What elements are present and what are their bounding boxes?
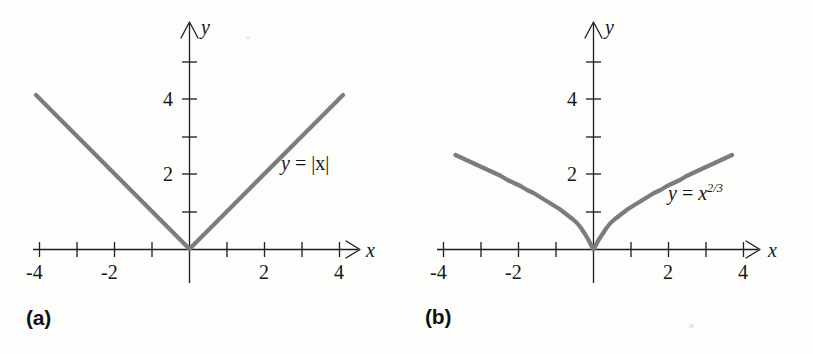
panel-a: -4 -2 2 4 2 4 x y y = |x| (a) [0,0,406,354]
paper-speck [246,36,250,39]
figure-two-graphs: -4 -2 2 4 2 4 x y y = |x| (a) [0,0,813,354]
x-tick-label-a-2: 2 [259,262,269,282]
x-tick-label-b-0: -4 [430,262,447,282]
y-axis-label-b: y [605,17,614,37]
paper-speck [689,324,694,328]
panel-a-plot [0,0,406,354]
equation-base-b: x [698,182,707,204]
y-tick-label-a-0: 2 [163,164,173,184]
equation-label-b: y = x2/3 [668,183,723,203]
equation-rhs-a: |x| [311,152,329,174]
equation-lhs-a: y [281,152,290,174]
panel-b: -4 -2 2 4 2 4 x y y = x2/3 (b) [406,0,813,354]
equation-operator-a: = [295,152,306,174]
x-tick-label-b-2: 2 [663,262,673,282]
equation-exponent-b: 2/3 [707,181,723,195]
equation-operator-b: = [682,182,693,204]
panel-label-a: (a) [26,306,51,330]
y-tick-label-b-1: 4 [567,89,577,109]
x-tick-label-b-3: 4 [738,262,748,282]
y-tick-label-b-0: 2 [567,164,577,184]
panel-b-plot [406,0,813,354]
y-tick-label-a-1: 4 [163,89,173,109]
equation-lhs-b: y [668,182,677,204]
y-axis-label-a: y [201,17,210,37]
x-axis-label-b: x [768,240,777,260]
equation-label-a: y = |x| [281,153,329,173]
panel-label-b: (b) [425,305,451,329]
x-tick-label-b-1: -2 [505,262,522,282]
x-tick-label-a-3: 4 [334,262,344,282]
x-axis-label-a: x [366,240,375,260]
x-tick-label-a-1: -2 [101,262,118,282]
x-tick-label-a-0: -4 [26,262,43,282]
